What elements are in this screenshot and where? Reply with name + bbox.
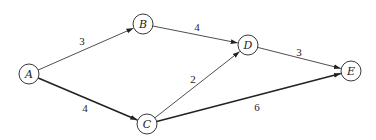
edge-weight-label: 6: [254, 101, 260, 113]
edges: 344236: [38, 21, 341, 122]
graph-diagram: 344236 ABCDE: [0, 0, 376, 140]
node-a: A: [19, 64, 39, 84]
edge-weight-label: 3: [79, 35, 85, 47]
edge-weight-label: 3: [296, 46, 302, 58]
node-label: C: [143, 118, 152, 131]
node-c: C: [137, 114, 157, 134]
node-label: E: [346, 65, 355, 78]
node-d: D: [238, 35, 258, 55]
edge-c-e: [157, 74, 341, 122]
edge-a-b: [38, 28, 133, 70]
edge-c-d: [155, 52, 240, 118]
node-b: B: [133, 14, 153, 34]
node-label: B: [138, 18, 147, 31]
edge-weight-label: 2: [190, 73, 196, 85]
node-label: A: [24, 68, 33, 81]
edge-weight-label: 4: [194, 21, 200, 33]
edge-a-c: [38, 78, 137, 120]
node-e: E: [341, 61, 361, 81]
node-label: D: [243, 39, 253, 52]
edge-weight-label: 4: [82, 102, 88, 114]
